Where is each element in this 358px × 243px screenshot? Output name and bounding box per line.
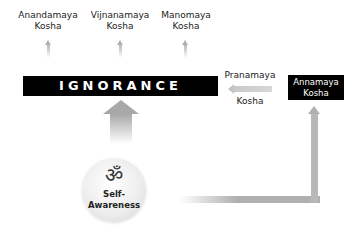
l-arrow-vertical [311, 113, 318, 203]
ignorance-bar: IGNORANCE [23, 76, 218, 96]
up-arrow-icon [183, 40, 188, 60]
up-arrow-icon [46, 40, 51, 60]
l-arrow-horizontal [180, 196, 320, 203]
annamaya-kosha-box: Annamaya Kosha [288, 75, 344, 100]
up-arrow-head-icon [308, 106, 320, 114]
label-line: Annamaya [288, 77, 344, 88]
label-line: Kosha [90, 21, 150, 32]
left-arrow-icon [228, 84, 274, 94]
label-line: Kosha [156, 21, 216, 32]
label-line: Awareness [82, 200, 146, 211]
om-icon: ॐ [82, 164, 146, 186]
label-line: Self- [82, 189, 146, 200]
up-arrow-icon [118, 40, 123, 60]
manomaya-kosha-label: Manomaya Kosha [156, 10, 216, 32]
pranamaya-label-top: Pranamaya [222, 70, 278, 81]
label-line: Vijnanamaya [90, 10, 150, 21]
label-line: Kosha [18, 21, 78, 32]
pranamaya-label-bottom: Kosha [222, 96, 278, 107]
self-awareness-label: Self- Awareness [82, 189, 146, 211]
label-line: Kosha [288, 88, 344, 99]
self-awareness-circle: ॐ Self- Awareness [82, 158, 146, 222]
label-line: Manomaya [156, 10, 216, 21]
big-up-arrow-icon [103, 100, 139, 146]
vijnanamaya-kosha-label: Vijnanamaya Kosha [90, 10, 150, 32]
anandamaya-kosha-label: Anandamaya Kosha [18, 10, 78, 32]
label-line: Anandamaya [18, 10, 78, 21]
